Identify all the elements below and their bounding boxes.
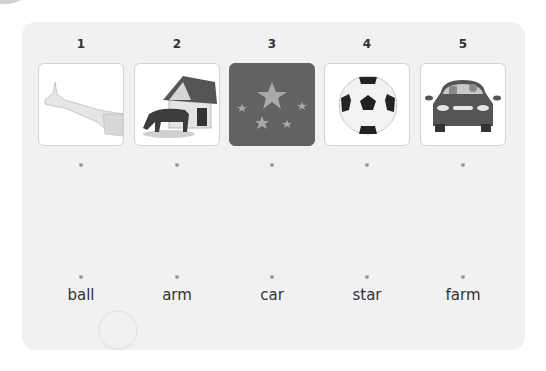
- arm-image-card[interactable]: [38, 63, 124, 146]
- item-number: 5: [418, 37, 508, 51]
- farm-image-card[interactable]: [134, 63, 220, 146]
- item-number: 3: [227, 37, 317, 51]
- top-connect-dot[interactable]: [79, 163, 83, 167]
- column-4: 4 star: [322, 22, 412, 350]
- item-number: 1: [36, 37, 126, 51]
- top-connect-dot[interactable]: [461, 163, 465, 167]
- bottom-connect-dot[interactable]: [461, 275, 465, 279]
- stars-image-card[interactable]: [229, 63, 315, 146]
- horse-barn-icon: [135, 64, 219, 145]
- column-2: 2 arm: [132, 22, 222, 350]
- car-image-card[interactable]: [420, 63, 506, 146]
- car-icon: [421, 64, 505, 145]
- item-number: 2: [132, 37, 222, 51]
- arm-icon: [39, 64, 123, 145]
- word-label: car: [227, 286, 317, 304]
- word-label: arm: [132, 286, 222, 304]
- matching-exercise-panel: 1 ball 2 arm 3: [22, 22, 525, 350]
- top-connect-dot[interactable]: [175, 163, 179, 167]
- bottom-connect-dot[interactable]: [79, 275, 83, 279]
- corner-decoration: [0, 0, 26, 4]
- column-1: 1 ball: [36, 22, 126, 350]
- word-label: farm: [418, 286, 508, 304]
- column-5: 5 farm: [418, 22, 508, 350]
- bottom-connect-dot[interactable]: [270, 275, 274, 279]
- soccer-ball-icon: [325, 64, 409, 145]
- item-number: 4: [322, 37, 412, 51]
- bottom-connect-dot[interactable]: [175, 275, 179, 279]
- word-label: ball: [36, 286, 126, 304]
- word-label: star: [322, 286, 412, 304]
- ball-image-card[interactable]: [324, 63, 410, 146]
- top-connect-dot[interactable]: [365, 163, 369, 167]
- bottom-connect-dot[interactable]: [365, 275, 369, 279]
- stars-icon: [230, 64, 314, 145]
- top-connect-dot[interactable]: [270, 163, 274, 167]
- column-3: 3 car: [227, 22, 317, 350]
